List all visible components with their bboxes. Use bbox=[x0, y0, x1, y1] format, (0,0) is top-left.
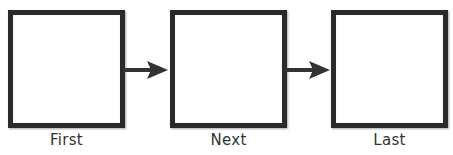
label-next: Next bbox=[170, 131, 287, 149]
box-first bbox=[8, 10, 125, 128]
arrow-right-icon bbox=[285, 60, 331, 80]
box-next bbox=[170, 10, 287, 128]
arrow-right-icon bbox=[123, 60, 169, 80]
box-last bbox=[331, 10, 448, 128]
label-last: Last bbox=[331, 131, 448, 149]
label-first: First bbox=[8, 131, 125, 149]
